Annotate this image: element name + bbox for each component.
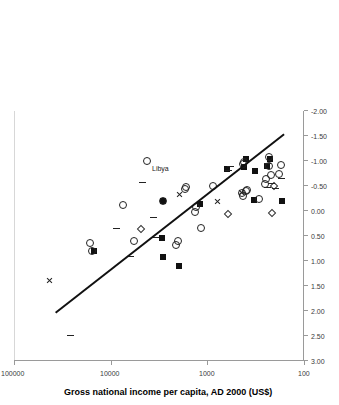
data-point-open-circle xyxy=(88,248,96,256)
x-tick-label: -0.50 xyxy=(311,183,327,190)
x-tick-mark xyxy=(304,135,308,136)
annotation-label: Libya xyxy=(152,165,169,172)
data-point-filled-square xyxy=(176,263,182,269)
data-point-vertical-dash xyxy=(278,179,285,180)
x-tick-label: 2.00 xyxy=(311,308,325,315)
data-point-vertical-dash xyxy=(227,166,234,167)
data-point-filled-square xyxy=(160,255,166,261)
data-point-x-mark xyxy=(46,277,53,284)
x-tick-label: -2.00 xyxy=(311,108,327,115)
y-tick-label: 100000 xyxy=(1,370,24,377)
data-point-vertical-dash xyxy=(67,335,74,336)
data-point-open-circle xyxy=(119,201,127,209)
data-point-open-circle xyxy=(267,171,275,179)
x-tick-mark xyxy=(304,235,308,236)
data-point-x-mark xyxy=(176,191,183,198)
data-point-open-circle xyxy=(86,239,94,247)
x-tick-mark xyxy=(304,310,308,311)
x-tick-label: 3.00 xyxy=(311,358,325,365)
data-point-open-diamond xyxy=(224,210,232,218)
trend-line xyxy=(55,134,285,314)
data-point-open-circle xyxy=(277,161,285,169)
x-tick-label: 0.00 xyxy=(311,208,325,215)
x-tick-mark xyxy=(304,185,308,186)
data-point-x-mark xyxy=(238,190,245,197)
x-tick-mark xyxy=(304,160,308,161)
x-tick-label: -1.50 xyxy=(311,133,327,140)
data-point-vertical-dash xyxy=(150,217,157,218)
data-point-open-circle xyxy=(255,195,263,203)
x-tick-label: 1.50 xyxy=(311,283,325,290)
data-point-open-diamond xyxy=(136,225,144,233)
x-tick-mark xyxy=(304,260,308,261)
data-point-filled-square xyxy=(159,236,165,242)
x-tick-mark xyxy=(304,110,308,111)
data-point-open-circle xyxy=(182,184,190,192)
data-point-open-diamond xyxy=(268,209,276,217)
y-tick-label: 10000 xyxy=(100,370,119,377)
x-tick-mark xyxy=(304,335,308,336)
plot-area xyxy=(14,111,304,361)
data-point-x-mark xyxy=(214,198,221,205)
y-axis-title: Gross national income per capita, AD 200… xyxy=(64,387,272,398)
x-tick-label: 1.00 xyxy=(311,258,325,265)
chart-screenshot: 3.002.502.001.501.000.500.00-0.50-1.00-1… xyxy=(0,0,339,405)
data-point-open-circle xyxy=(130,238,138,246)
data-point-open-circle xyxy=(275,170,283,178)
data-point-vertical-dash xyxy=(264,163,271,164)
y-tick-mark xyxy=(304,361,305,365)
y-tick-mark xyxy=(14,361,15,365)
rotated-figure: 3.002.502.001.501.000.500.00-0.50-1.00-1… xyxy=(0,0,339,405)
y-tick-label: 1000 xyxy=(199,370,215,377)
data-point-vertical-dash xyxy=(113,229,120,230)
data-point-vertical-dash xyxy=(272,189,279,190)
x-tick-label: -1.00 xyxy=(311,158,327,165)
data-point-filled-square xyxy=(279,198,285,204)
x-tick-label: 0.50 xyxy=(311,233,325,240)
data-point-open-circle xyxy=(174,237,182,245)
x-tick-label: 2.50 xyxy=(311,333,325,340)
data-point-filled-square xyxy=(252,168,258,174)
data-point-vertical-dash xyxy=(268,184,275,185)
data-point-vertical-dash xyxy=(225,170,232,171)
data-point-open-circle xyxy=(143,157,151,165)
data-point-vertical-dash xyxy=(264,188,271,189)
y-tick-mark xyxy=(207,361,208,365)
x-tick-mark xyxy=(304,285,308,286)
data-point-open-circle xyxy=(197,224,205,232)
y-tick-label: 100 xyxy=(298,370,310,377)
x-tick-mark xyxy=(304,210,308,211)
y-tick-mark xyxy=(111,361,112,365)
data-point-vertical-dash xyxy=(139,183,146,184)
